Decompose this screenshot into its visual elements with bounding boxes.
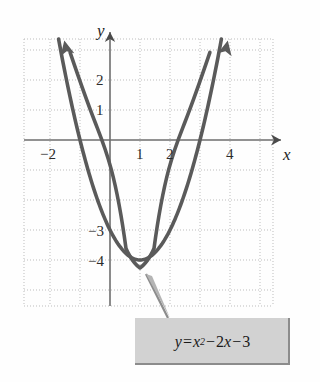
x-tick-label-1: 1: [136, 147, 144, 162]
eq-x-linear: x: [224, 333, 231, 351]
y-tick-label-2: 2: [96, 73, 104, 88]
eq-x: x: [193, 333, 200, 351]
y-axis-label: y: [97, 22, 105, 39]
grid-horizontal-lines: [24, 39, 273, 306]
y-tick-label-neg3: −3: [88, 224, 104, 239]
eq-equals: =: [182, 333, 193, 351]
x-tick-label-2: 2: [166, 147, 174, 162]
eq-coefficient-2: 2: [216, 333, 224, 351]
x-axis-label: x: [283, 146, 291, 163]
y-tick-label-1: 1: [96, 103, 104, 118]
equation-callout-box: y = x2 − 2x − 3: [135, 318, 290, 365]
callout-leader-line: [146, 274, 170, 318]
x-tick-label-4: 4: [226, 147, 234, 162]
eq-minus-2: −: [231, 333, 242, 351]
grid-vertical-lines: [24, 39, 273, 306]
equation-text: y = x2 − 2x − 3: [135, 318, 290, 365]
eq-constant-3: 3: [242, 333, 250, 351]
x-tick-label-neg2: −2: [40, 147, 56, 162]
eq-minus-1: −: [205, 333, 216, 351]
eq-y: y: [175, 333, 182, 351]
x-axis: [24, 135, 281, 146]
y-tick-label-neg4: −4: [88, 254, 104, 269]
